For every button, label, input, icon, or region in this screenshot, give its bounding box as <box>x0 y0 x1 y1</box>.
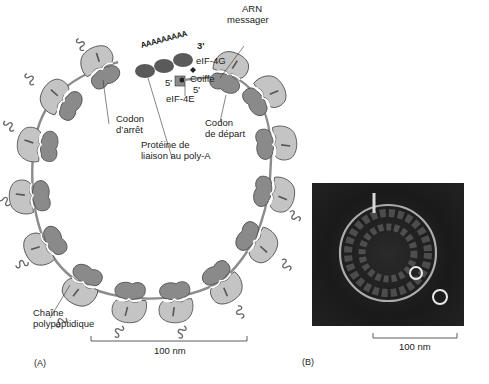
scale-label-a: 100 nm <box>154 345 186 356</box>
label-eif4e: eIF-4E <box>166 93 195 104</box>
label-proteine-polyA: Protéine deliaison au poly-A <box>141 139 211 161</box>
panel-label-a: (A) <box>34 358 46 368</box>
scale-bar-b <box>373 333 457 338</box>
label-chaine-polypeptidique: Chaînepolypeptidique <box>33 307 94 329</box>
label-messager: messager <box>227 14 269 25</box>
label-codon-arret: Codond’arrêt <box>116 113 144 135</box>
label-coiffe: Coiffe <box>190 73 215 84</box>
ribosome-group <box>8 40 298 324</box>
label-eif4g: eIF-4G <box>196 55 226 66</box>
panel-label-b: (B) <box>302 357 314 367</box>
label-3prime: 3' <box>197 40 205 51</box>
cap-glyph <box>180 78 185 83</box>
scale-label-b: 100 nm <box>399 341 431 352</box>
label-arn: ARN <box>242 3 262 14</box>
label-codon-depart: Codonde départ <box>205 117 245 139</box>
label-5prime-left: 5' <box>165 77 172 88</box>
polyA-binding-proteins <box>135 53 193 78</box>
scale-bar-a <box>91 336 247 341</box>
electron-micrograph <box>312 183 464 326</box>
